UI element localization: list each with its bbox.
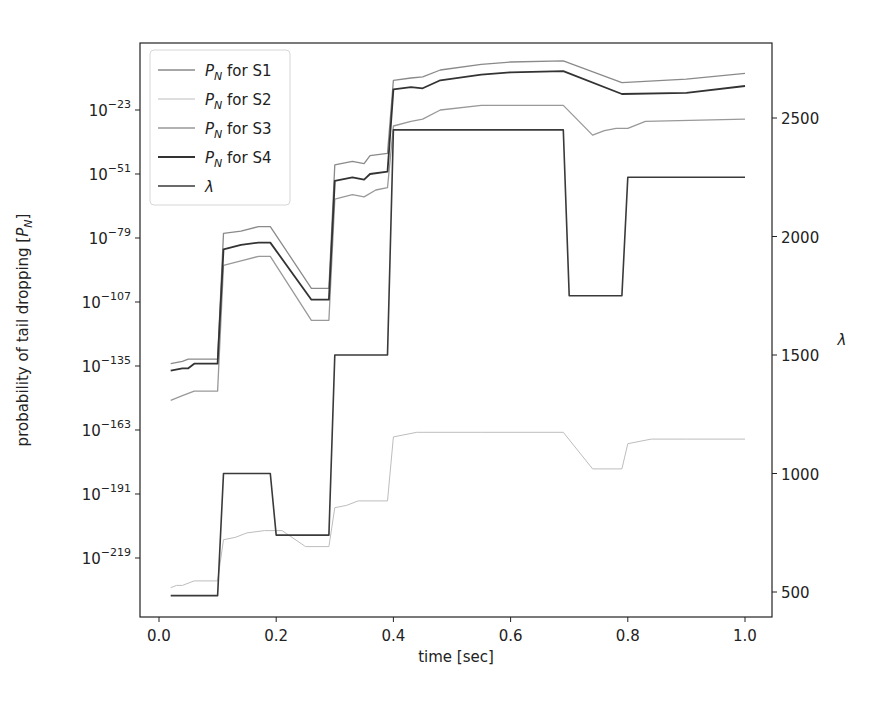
y-axis-right: 5001000150020002500 [772,110,819,602]
legend-label: λ [204,178,214,196]
x-tick-label: 0.4 [381,627,405,645]
y-right-tick-label: 2000 [781,229,819,247]
y-left-tick-label: 10−163 [82,418,131,440]
x-tick-label: 0.2 [264,627,288,645]
y-left-tick-label: 10−23 [89,98,131,120]
x-tick-label: 0.8 [616,627,640,645]
y-left-tick-label: 10−191 [82,482,131,504]
x-tick-label: 0.6 [499,627,523,645]
series-line-2 [171,432,745,587]
y-axis-right-label: λ [837,331,847,349]
y-left-tick-label: 10−79 [89,226,131,248]
y-left-tick-label: 10−107 [82,290,131,312]
x-tick-label: 0.0 [147,627,171,645]
legend: PN for S1PN for S2PN for S3PN for S4λ [150,50,290,205]
y-right-tick-label: 1500 [781,347,819,365]
y-axis-left: 10−2310−5110−7910−10710−13510−16310−1911… [82,98,140,568]
y-left-tick-label: 10−51 [89,162,131,184]
x-tick-label: 1.0 [733,627,757,645]
y-left-tick-label: 10−135 [82,354,131,376]
x-axis-label: time [sec] [418,648,494,666]
chart-canvas: 0.00.20.40.60.81.0 10−2310−5110−7910−107… [0,0,877,705]
x-axis: 0.00.20.40.60.81.0 [147,617,757,645]
y-right-tick-label: 1000 [781,466,819,484]
y-right-tick-label: 2500 [781,110,819,128]
y-axis-left-label: probability of tail dropping [PN] [14,214,35,447]
y-left-tick-label: 10−219 [82,546,131,568]
y-right-tick-label: 500 [781,584,810,602]
